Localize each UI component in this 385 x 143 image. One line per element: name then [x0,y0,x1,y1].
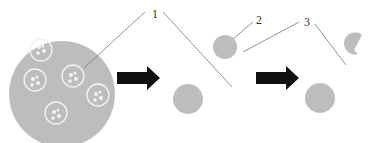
label-1: 1 [152,8,158,20]
arrow-icon [117,66,160,90]
particle-budding [344,32,362,54]
arrow-icon [256,66,299,90]
particle [305,83,335,113]
diagram-canvas [0,0,385,143]
particle [173,84,203,114]
label-2: 2 [256,14,262,26]
label-3: 3 [304,16,310,28]
diagram: 1 2 3 [0,0,385,143]
